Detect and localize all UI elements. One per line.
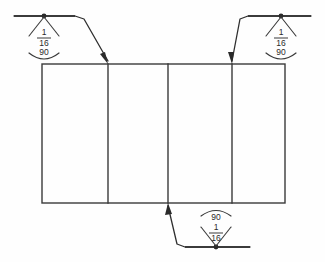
- weld-length-bottom: 90: [211, 212, 221, 222]
- weld-symbol-top-left: 1 16 90: [14, 14, 108, 64]
- leader-line-top-left: [14, 16, 108, 61]
- weld-size-numerator-top-right: 1: [279, 27, 284, 37]
- weld-size-numerator-top-left: 1: [42, 27, 47, 37]
- weld-length-top-left: 90: [39, 47, 49, 57]
- arrowhead-bottom: [165, 203, 172, 215]
- welding-symbol-drawing: 1 16 90 1 16 90: [0, 0, 325, 262]
- plate-outer-rect: [42, 64, 285, 203]
- weld-symbol-top-right: 1 16 90: [228, 14, 311, 64]
- weld-length-top-right: 90: [276, 47, 286, 57]
- weld-symbol-bottom: 90 1 16: [165, 203, 250, 249]
- leader-line-top-right: [232, 16, 311, 61]
- plate-outline: [42, 64, 285, 203]
- weld-size-denominator-bottom: 16: [211, 233, 221, 243]
- drawing-canvas: 1 16 90 1 16 90: [0, 0, 325, 262]
- weld-size-numerator-bottom: 1: [214, 222, 219, 232]
